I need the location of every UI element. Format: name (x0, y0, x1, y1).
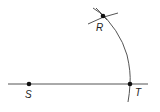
label-r: R (96, 22, 103, 33)
label-t: T (135, 87, 142, 98)
point-t (128, 82, 133, 87)
point-r (101, 14, 106, 19)
geometry-construction: S T R (0, 0, 160, 112)
label-s: S (25, 89, 32, 100)
point-s (27, 82, 32, 87)
